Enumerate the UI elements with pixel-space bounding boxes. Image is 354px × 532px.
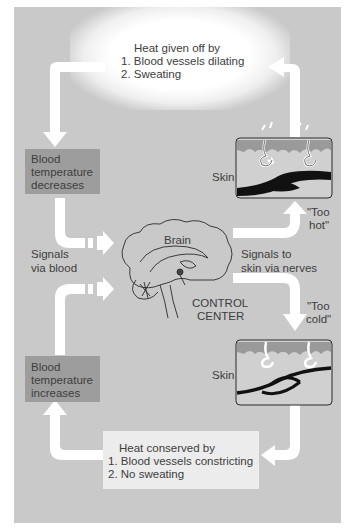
signals-nerves-line-2: skin via nerves — [241, 262, 317, 275]
control-center-line-2: CENTER — [197, 310, 244, 323]
blood-decreases-line-3: decreases — [31, 179, 100, 192]
skin-label-top: Skin — [212, 171, 234, 184]
heat-conserve-item-2: 2. No sweating — [108, 468, 184, 481]
too-hot-line-1: "Too — [307, 206, 330, 219]
blood-decreases-line-1: Blood — [31, 153, 100, 166]
signals-nerves-line-1: Signals to — [241, 248, 292, 261]
arrow-skin-to-heat — [268, 57, 300, 137]
arrow-brain-to-hot-skin — [233, 201, 307, 238]
signals-via-blood-line-1: Signals — [31, 248, 69, 261]
heat-conserve-heading: Heat conserved by — [119, 442, 215, 455]
too-cold-line-2: cold" — [306, 313, 331, 326]
arrow-decrease-to-brain — [55, 198, 114, 255]
skin-diagram-top — [236, 122, 332, 198]
heat-loss-item-1: 1. Blood vessels dilating — [121, 55, 244, 68]
blood-decreases-line-2: temperature — [31, 166, 100, 179]
arrow-increase-to-brain — [55, 277, 114, 355]
skin-diagram-bottom — [236, 340, 332, 405]
heat-conserve-item-1: 1. Blood vessels constricting — [108, 455, 253, 468]
brain-label: Brain — [164, 234, 191, 247]
blood-increases-line-3: increases — [31, 387, 100, 400]
arrow-heat-to-decrease — [43, 62, 105, 147]
arrow-conserve-to-increase — [43, 400, 105, 460]
blood-increases-line-2: temperature — [31, 374, 100, 387]
too-cold-line-1: "Too — [307, 300, 330, 313]
control-center-line-1: CONTROL — [192, 297, 248, 310]
heat-loss-heading: Heat given off by — [134, 42, 220, 55]
heat-loss-item-2: 2. Sweating — [121, 68, 181, 81]
blood-increases-line-1: Blood — [31, 361, 100, 374]
too-hot-line-2: hot" — [309, 219, 329, 232]
skin-label-bottom: Skin — [212, 369, 234, 382]
blood-temp-increases-box: Blood temperature increases — [25, 356, 100, 402]
signals-via-blood-line-2: via blood — [31, 262, 77, 275]
arrow-skin-to-conserve — [261, 405, 300, 466]
blood-temp-decreases-box: Blood temperature decreases — [25, 149, 100, 194]
